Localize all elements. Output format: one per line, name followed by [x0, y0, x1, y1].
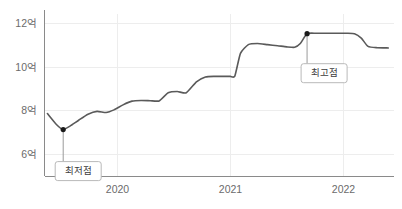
x-axis-tick-labels: 202020212022: [106, 183, 356, 195]
annotation-highest-point[interactable]: 최고점: [301, 31, 347, 83]
data-point-marker[interactable]: [61, 127, 66, 132]
data-point-marker[interactable]: [304, 31, 309, 36]
annotation-label: 최고점: [311, 67, 338, 78]
y-axis-tick-labels: 6억8억10억12억: [15, 17, 37, 160]
chart-canvas: 6억8억10억12억 202020212022 최저점최고점: [0, 0, 402, 209]
annotation-lowest-point[interactable]: 최저점: [55, 127, 101, 181]
annotations-group: 최저점최고점: [55, 31, 347, 181]
line-chart-figure: 6억8억10억12억 202020212022 최저점최고점: [0, 0, 402, 209]
y-tick-label: 6억: [21, 148, 37, 160]
x-tick-label: 2020: [106, 183, 130, 195]
axis-group: [45, 10, 395, 177]
y-tick-label: 12억: [15, 17, 37, 29]
x-tick-label: 2022: [332, 183, 356, 195]
annotation-label: 최저점: [65, 165, 92, 176]
x-tick-label: 2021: [219, 183, 243, 195]
gridlines-group: [44, 14, 394, 176]
y-tick-label: 10억: [15, 61, 37, 73]
y-tick-label: 8억: [21, 104, 37, 116]
